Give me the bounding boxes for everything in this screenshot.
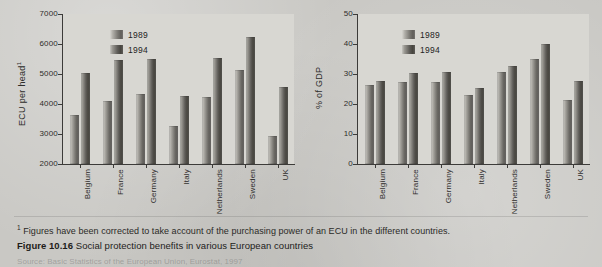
legend-swatch-1994-icon — [110, 45, 123, 54]
bar-group — [70, 14, 90, 164]
bar-group — [497, 14, 517, 164]
bar-1994 — [541, 44, 550, 164]
y-axis-tick — [58, 104, 62, 105]
y-tick-label: 7000 — [28, 10, 58, 18]
bar-1994 — [574, 81, 583, 164]
bar-1989 — [235, 70, 244, 164]
caption-text: Social protection benefits in various Eu… — [76, 240, 313, 251]
x-axis-tick — [113, 165, 114, 168]
bar-1994 — [279, 87, 288, 164]
chart-legend: 1989 1994 — [110, 29, 148, 59]
charts-row: ECU per head1 200030004000500060007000 B… — [0, 4, 602, 194]
legend-swatch-1989-icon — [110, 30, 123, 39]
bar-1989 — [169, 126, 178, 164]
bar-1989 — [70, 115, 79, 165]
x-tick-label: Germany — [150, 169, 158, 203]
chart-ecu-per-head: ECU per head1 200030004000500060007000 B… — [2, 4, 302, 194]
y-axis-tick — [58, 164, 62, 165]
x-tick-label: Sweden — [249, 169, 257, 199]
bar-group — [530, 14, 550, 164]
bar-1994 — [147, 59, 156, 164]
x-tick-label: UK — [577, 169, 585, 181]
y-axis-tick — [58, 134, 62, 135]
x-axis-tick — [474, 165, 475, 168]
bar-1994 — [81, 73, 90, 165]
bar-group — [169, 14, 189, 164]
x-axis-tick — [507, 165, 508, 168]
x-tick-label: Belgium — [84, 169, 92, 199]
y-tick-label: 10 — [331, 130, 353, 138]
bar-1989 — [365, 85, 374, 164]
x-tick-label: UK — [282, 169, 290, 181]
bar-group — [563, 14, 583, 164]
y-tick-label: 2000 — [28, 160, 58, 168]
bar-1989 — [398, 82, 407, 164]
bar-groups — [358, 14, 589, 164]
y-axis-tick — [353, 74, 357, 75]
bar-1989 — [464, 95, 473, 164]
bar-1994 — [213, 58, 222, 164]
legend-item-1994: 1994 — [110, 44, 148, 55]
y-axis-tick — [353, 164, 357, 165]
y-axis-tick — [58, 14, 62, 15]
y-axis-tick — [353, 44, 357, 45]
x-tick-label: Netherlands — [511, 169, 519, 214]
legend-item-1989: 1989 — [402, 29, 440, 40]
bar-1994 — [246, 37, 255, 164]
bar-group — [464, 14, 484, 164]
legend-swatch-1994-icon — [402, 45, 415, 54]
y-axis-tick — [58, 74, 62, 75]
x-axis-tick — [146, 165, 147, 168]
y-tick-label: 0 — [331, 160, 353, 168]
caption-number: Figure 10.16 — [17, 240, 73, 251]
y-tick-label: 50 — [331, 10, 353, 18]
x-axis-tick — [375, 165, 376, 168]
bar-1989 — [202, 97, 211, 164]
footnote-divider — [14, 216, 588, 217]
y-tick-label: 40 — [331, 40, 353, 48]
x-axis-tick — [80, 165, 81, 168]
x-tick-label: Italy — [183, 169, 191, 185]
legend-item-1994: 1994 — [402, 44, 440, 55]
y-axis-title-text: % of GDP — [314, 67, 324, 109]
y-axis-title: % of GDP — [314, 67, 324, 109]
y-axis-tick — [353, 104, 357, 105]
bar-1994 — [376, 81, 385, 164]
chart-legend: 1989 1994 — [402, 29, 440, 59]
bar-1994 — [442, 72, 451, 164]
figure-caption: Figure 10.16 Social protection benefits … — [17, 240, 589, 252]
x-tick-label: Italy — [478, 169, 486, 185]
bar-groups — [63, 14, 294, 164]
y-tick-label: 4000 — [28, 100, 58, 108]
legend-swatch-1989-icon — [402, 30, 415, 39]
bar-group — [365, 14, 385, 164]
y-tick-label: 20 — [331, 100, 353, 108]
figure-source: Source: Basic Statistics of the European… — [17, 257, 589, 266]
bar-1989 — [497, 72, 506, 164]
y-tick-label: 5000 — [28, 70, 58, 78]
bar-group — [202, 14, 222, 164]
x-axis-tick — [212, 165, 213, 168]
y-tick-label: 3000 — [28, 130, 58, 138]
footnote-text: Figures have been corrected to take acco… — [23, 226, 450, 236]
bar-1989 — [136, 94, 145, 164]
x-axis-tick — [540, 165, 541, 168]
bar-1994 — [114, 60, 123, 164]
x-axis-tick — [441, 165, 442, 168]
bar-1994 — [180, 96, 189, 164]
legend-item-1989: 1989 — [110, 29, 148, 40]
x-tick-label: Sweden — [544, 169, 552, 199]
bar-1989 — [103, 101, 112, 164]
y-axis-tick — [58, 44, 62, 45]
legend-label-1989: 1989 — [128, 30, 148, 40]
y-axis-tick — [353, 134, 357, 135]
bar-group — [235, 14, 255, 164]
bar-1989 — [563, 100, 572, 165]
bar-1994 — [409, 73, 418, 164]
y-tick-label: 6000 — [28, 40, 58, 48]
bar-1994 — [475, 88, 484, 164]
bar-1989 — [431, 82, 440, 164]
x-tick-label: Belgium — [379, 169, 387, 199]
x-axis-tick — [179, 165, 180, 168]
bar-group — [268, 14, 288, 164]
